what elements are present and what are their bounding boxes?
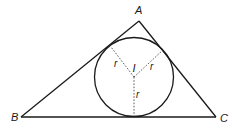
vertex-label-c: C — [220, 112, 228, 124]
radius-label-ab: r — [114, 58, 118, 69]
radius-label-bc: r — [136, 89, 140, 100]
radius-label-ac: r — [150, 61, 154, 72]
incircle-diagram: A B C I r r r — [0, 0, 237, 131]
vertex-label-b: B — [11, 111, 18, 123]
vertex-label-a: A — [134, 4, 142, 16]
incenter-label: I — [133, 62, 136, 74]
side-ab — [21, 21, 139, 117]
radius-to-ac — [134, 50, 163, 77]
